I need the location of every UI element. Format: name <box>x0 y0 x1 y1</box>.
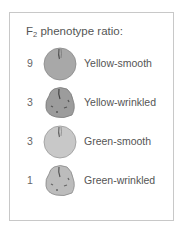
phenotype-label: Green-smooth <box>84 135 151 147</box>
smooth-pea-icon <box>42 123 78 159</box>
ratio-value: 1 <box>25 174 35 186</box>
wrinkled-pea-icon <box>42 162 78 198</box>
title-prefix: F <box>26 25 33 37</box>
wrinkled-pea-icon <box>42 84 78 120</box>
phenotype-label: Yellow-wrinkled <box>84 96 156 108</box>
ratio-value: 3 <box>25 96 35 108</box>
title-text: phenotype ratio: <box>37 25 123 37</box>
phenotype-ratio-panel: F2 phenotype ratio: 9 Yellow-smooth 3 Ye… <box>9 12 174 221</box>
ratio-value: 9 <box>25 57 35 69</box>
phenotype-row-yellow-wrinkled: 3 Yellow-wrinkled <box>10 84 175 120</box>
phenotype-row-green-smooth: 3 Green-smooth <box>10 123 175 159</box>
ratio-value: 3 <box>25 135 35 147</box>
phenotype-row-green-wrinkled: 1 Green-wrinkled <box>10 162 175 198</box>
phenotype-label: Green-wrinkled <box>84 174 155 186</box>
phenotype-label: Yellow-smooth <box>84 57 152 69</box>
phenotype-row-yellow-smooth: 9 Yellow-smooth <box>10 45 175 81</box>
smooth-pea-icon <box>42 45 78 81</box>
panel-title: F2 phenotype ratio: <box>26 25 123 39</box>
